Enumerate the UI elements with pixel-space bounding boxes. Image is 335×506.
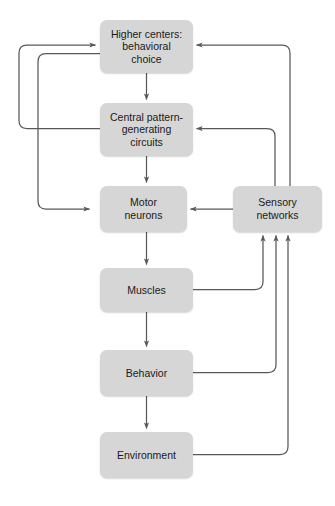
node-sensory-networks-label: Sensory networks (252, 196, 302, 221)
node-environment-label: Environment (113, 449, 180, 462)
node-central-pattern-generating-circuits[interactable]: Central pattern- generating circuits (100, 103, 193, 156)
node-muscles[interactable]: Muscles (100, 268, 193, 312)
node-central-pattern-generating-circuits-label: Central pattern- generating circuits (106, 111, 187, 149)
edge-environment-to-sensory (193, 236, 288, 455)
diagram-canvas: Higher centers: behavioral choice Centra… (0, 0, 335, 506)
node-higher-centers[interactable]: Higher centers: behavioral choice (100, 20, 193, 73)
diagram-edges-layer (0, 0, 335, 506)
node-behavior[interactable]: Behavior (100, 350, 193, 396)
edge-sensory-to-cpg (197, 129, 276, 187)
node-sensory-networks[interactable]: Sensory networks (233, 186, 322, 232)
node-behavior-label: Behavior (122, 367, 171, 380)
edge-muscles-to-sensory (193, 236, 263, 290)
node-environment[interactable]: Environment (100, 432, 193, 478)
node-motor-neurons-label: Motor neurons (121, 196, 167, 221)
node-muscles-label: Muscles (123, 284, 170, 297)
node-motor-neurons[interactable]: Motor neurons (100, 186, 187, 232)
node-higher-centers-label: Higher centers: behavioral choice (107, 28, 186, 66)
edge-cpg-to-higher-feedback (19, 45, 100, 129)
edge-higher-to-motor-feedforward (38, 54, 100, 210)
edge-sensory-to-higher (197, 45, 291, 186)
